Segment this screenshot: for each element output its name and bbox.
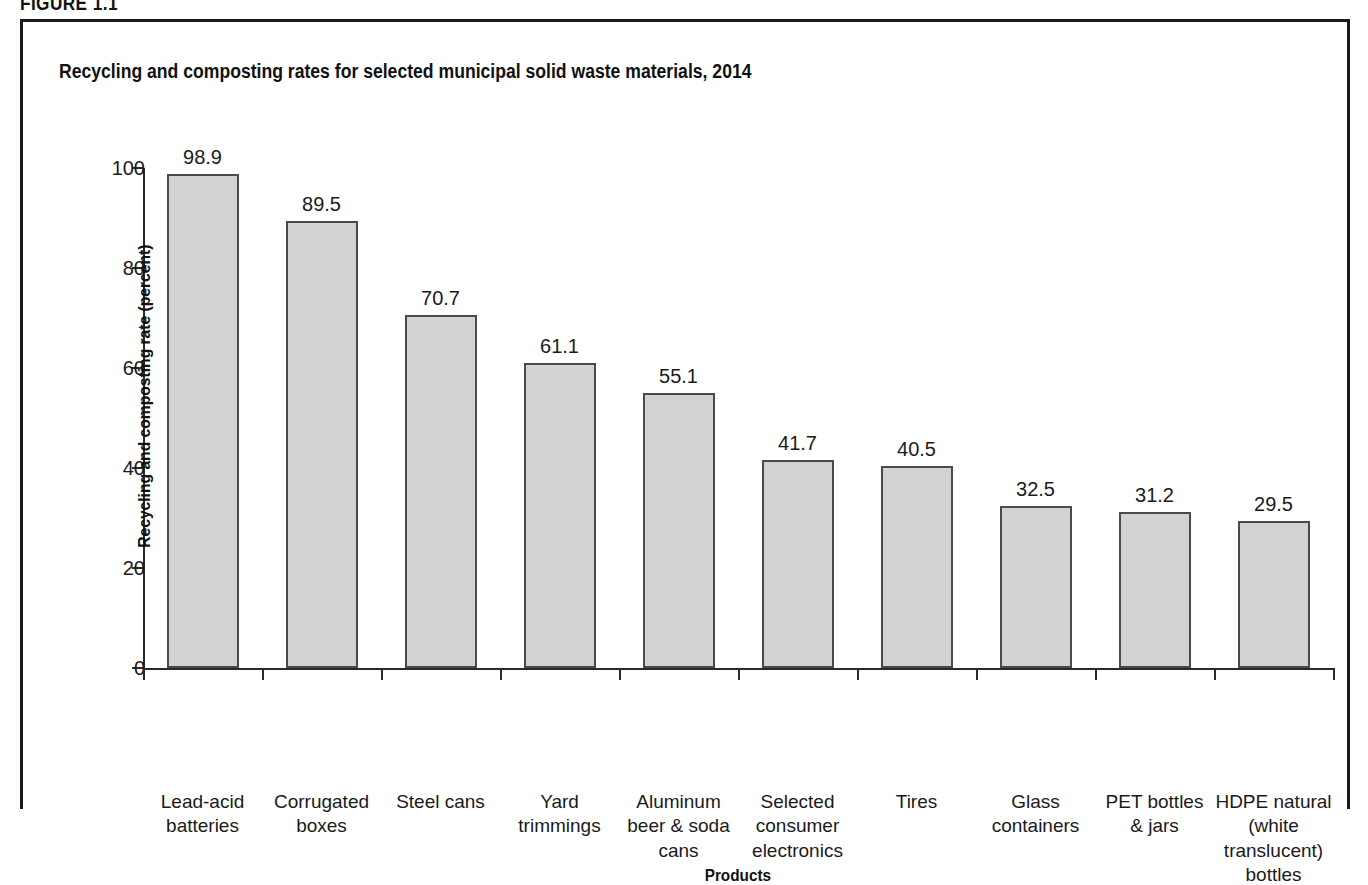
bar-item[interactable]: 29.5 (1238, 494, 1310, 669)
y-axis-title-text: Recycling and composting rate (percent) (135, 244, 155, 547)
chart-title: Recycling and composting rates for selec… (59, 60, 752, 83)
x-tick-mark (1095, 668, 1097, 680)
bar-rect[interactable] (405, 315, 477, 669)
bar-rect[interactable] (762, 460, 834, 669)
y-tick-label: 100 (0, 157, 153, 180)
bar-item[interactable]: 55.1 (643, 366, 715, 669)
bar-item[interactable]: 61.1 (524, 336, 596, 669)
bar-value-label: 70.7 (421, 288, 460, 308)
x-category-label-line: boxes (250, 814, 393, 838)
bar-item[interactable]: 41.7 (762, 433, 834, 669)
x-tick-mark (619, 668, 621, 680)
x-tick-mark (381, 668, 383, 680)
x-tick-mark (738, 668, 740, 680)
bar-rect[interactable] (643, 393, 715, 669)
bar-value-label: 61.1 (540, 336, 579, 356)
bar-rect[interactable] (1000, 506, 1072, 669)
x-tick-mark (857, 668, 859, 680)
y-tick-label: 0 (0, 657, 153, 680)
bar-value-label: 89.5 (302, 194, 341, 214)
x-tick-mark (1333, 668, 1335, 680)
bar-rect[interactable] (881, 466, 953, 669)
bar-item[interactable]: 40.5 (881, 439, 953, 669)
x-category-label-line: HDPE natural (1202, 790, 1345, 814)
y-tick-label: 60 (0, 357, 153, 380)
bar-rect[interactable] (524, 363, 596, 669)
bar-value-label: 32.5 (1016, 479, 1055, 499)
figure-caption: FIGURE 1.1 (20, 0, 118, 15)
x-tick-mark (1214, 668, 1216, 680)
bar-value-label: 98.9 (183, 147, 222, 167)
bar-rect[interactable] (167, 174, 239, 669)
plot-area: 020406080100 98.989.570.761.155.141.740.… (143, 122, 1333, 670)
bar-item[interactable]: 98.9 (167, 147, 239, 669)
x-tick-mark (500, 668, 502, 680)
bar-value-label: 29.5 (1254, 494, 1293, 514)
y-tick-label: 40 (0, 457, 153, 480)
bar-value-label: 40.5 (897, 439, 936, 459)
y-tick-label: 20 (0, 557, 153, 580)
bar-item[interactable]: 32.5 (1000, 479, 1072, 669)
x-tick-mark (262, 668, 264, 680)
y-tick-label: 80 (0, 257, 153, 280)
bar-rect[interactable] (1119, 512, 1191, 668)
bar-value-label: 41.7 (778, 433, 817, 453)
bar-rect[interactable] (286, 221, 358, 669)
bar-item[interactable]: 31.2 (1119, 485, 1191, 668)
x-category-label-line: consumer (726, 814, 869, 838)
bar-item[interactable]: 89.5 (286, 194, 358, 669)
figure-frame: Recycling and composting rates for selec… (20, 19, 1350, 809)
x-category-label-line: (white translucent) (1202, 814, 1345, 863)
y-axis-title: Recycling and composting rate (percent) (135, 122, 155, 670)
bar-item[interactable]: 70.7 (405, 288, 477, 669)
bar-rect[interactable] (1238, 521, 1310, 669)
x-axis-title-text: Products (705, 866, 771, 885)
bar-value-label: 55.1 (659, 366, 698, 386)
x-tick-mark (976, 668, 978, 680)
bar-value-label: 31.2 (1135, 485, 1174, 505)
x-axis-title: Products (143, 866, 1333, 885)
x-category-label-line: electronics (726, 839, 869, 863)
